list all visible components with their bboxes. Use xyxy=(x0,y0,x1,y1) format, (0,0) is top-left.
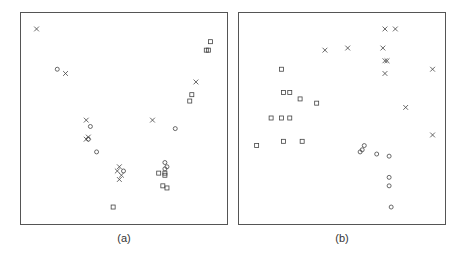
panel-a-cross-point xyxy=(34,27,39,32)
panel-b-square-point xyxy=(298,97,302,101)
panel-b-cross-point xyxy=(430,133,435,138)
panel-b-square-point xyxy=(279,67,283,71)
panel-a-cross-point xyxy=(63,71,68,76)
panel-b-cross-point xyxy=(383,27,388,32)
panel-b-circle-point xyxy=(362,144,366,148)
panel-a-square-point xyxy=(188,99,192,103)
panel-b-marks xyxy=(255,27,435,209)
panel-b-circle-point xyxy=(375,152,379,156)
panel-a-circle-point xyxy=(55,67,59,71)
panel-a-circle-point xyxy=(95,150,99,154)
panel-a-square-point xyxy=(111,205,115,209)
panel-a-frame xyxy=(21,13,228,225)
panel-b-cross-point xyxy=(381,46,386,51)
panel-a-square-point xyxy=(165,186,169,190)
panel-b-square-point xyxy=(300,139,304,143)
panel-a-square-point xyxy=(161,184,165,188)
panel-a-circle-point xyxy=(173,127,177,131)
panel-a-circle-point xyxy=(86,137,90,141)
panel-b-square-point xyxy=(282,91,286,95)
panel-a-caption: (a) xyxy=(117,232,130,244)
panel-b-square-point xyxy=(288,116,292,120)
panel-b-cross-point xyxy=(323,48,328,53)
panel-a-cross-point xyxy=(194,80,199,85)
panel-a-square-point xyxy=(190,93,194,97)
panel-a-circle-point xyxy=(88,124,92,128)
panel-a-square-point xyxy=(157,171,161,175)
panel-a-circle-point xyxy=(163,161,167,165)
panel-b-square-point xyxy=(282,139,286,143)
panel-a-cross-point xyxy=(150,118,155,123)
panel-b-cross-point xyxy=(430,67,435,72)
panel-a-circle-point xyxy=(122,169,126,173)
panel-a-cross-point xyxy=(84,118,89,123)
scatter-figure: (a) (b) xyxy=(0,0,465,255)
panel-b-cross-point xyxy=(383,71,388,76)
panel-b-square-point xyxy=(255,144,259,148)
panel-b-cross-point xyxy=(345,46,350,51)
panel-b-frame xyxy=(239,13,446,225)
panel-b-cross-point xyxy=(393,27,398,32)
panel-a-square-point xyxy=(208,40,212,44)
panel-b-circle-point xyxy=(389,205,393,209)
panel-b-square-point xyxy=(315,101,319,105)
panel-b-square-point xyxy=(269,116,273,120)
panel-b-circle-point xyxy=(387,184,391,188)
panel-a-marks xyxy=(34,27,212,209)
panel-b-square-point xyxy=(279,116,283,120)
panel-b-circle-point xyxy=(387,154,391,158)
panel-b-caption: (b) xyxy=(335,232,348,244)
panel-b-cross-point xyxy=(403,105,408,110)
panel-b-circle-point xyxy=(387,175,391,179)
panel-b-square-point xyxy=(288,91,292,95)
